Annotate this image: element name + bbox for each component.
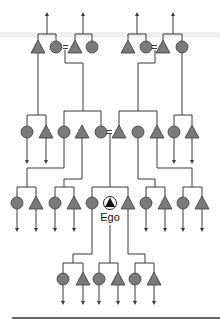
ego-symbol bbox=[104, 197, 117, 210]
female-circle-icon bbox=[49, 197, 61, 209]
marriage-equals-icon bbox=[107, 131, 112, 134]
female-circle-icon bbox=[21, 126, 33, 138]
male-triangle-icon bbox=[68, 40, 82, 53]
female-circle-icon bbox=[140, 41, 152, 53]
kinship-diagram: Ego bbox=[0, 0, 220, 319]
female-circle-icon bbox=[50, 41, 62, 53]
male-triangle-icon bbox=[150, 125, 164, 138]
female-circle-icon bbox=[168, 126, 180, 138]
female-circle-icon bbox=[86, 197, 98, 209]
male-triangle-icon bbox=[31, 40, 45, 53]
male-triangle-icon bbox=[156, 40, 170, 53]
female-circle-icon bbox=[177, 197, 189, 209]
generation-minus-1 bbox=[57, 263, 161, 303]
male-triangle-icon bbox=[67, 196, 81, 209]
male-triangle-icon bbox=[39, 125, 53, 138]
male-triangle-icon bbox=[185, 125, 199, 138]
marriage-equals-icon bbox=[63, 46, 68, 49]
scan-band bbox=[0, 32, 220, 37]
male-triangle-icon bbox=[112, 125, 126, 138]
male-triangle-icon bbox=[75, 125, 89, 138]
male-triangle-icon bbox=[76, 272, 90, 285]
female-circle-icon bbox=[58, 126, 70, 138]
female-circle-icon bbox=[93, 273, 105, 285]
female-circle-icon bbox=[11, 197, 23, 209]
female-circle-icon bbox=[176, 41, 188, 53]
female-circle-icon bbox=[57, 273, 69, 285]
marriage-equals-icon bbox=[152, 46, 157, 49]
female-circle-icon bbox=[86, 41, 98, 53]
ego-label: Ego bbox=[100, 211, 120, 223]
male-triangle-icon bbox=[121, 196, 135, 209]
female-circle-icon bbox=[129, 273, 141, 285]
male-triangle-icon bbox=[147, 272, 161, 285]
generation-ego: Ego bbox=[11, 187, 209, 230]
male-triangle-icon bbox=[158, 196, 172, 209]
female-circle-icon bbox=[140, 197, 152, 209]
male-triangle-icon bbox=[195, 196, 209, 209]
male-triangle-icon bbox=[121, 40, 135, 53]
female-circle-icon bbox=[132, 126, 144, 138]
male-triangle-icon bbox=[29, 196, 43, 209]
male-triangle-icon bbox=[111, 272, 125, 285]
female-circle-icon bbox=[95, 126, 107, 138]
